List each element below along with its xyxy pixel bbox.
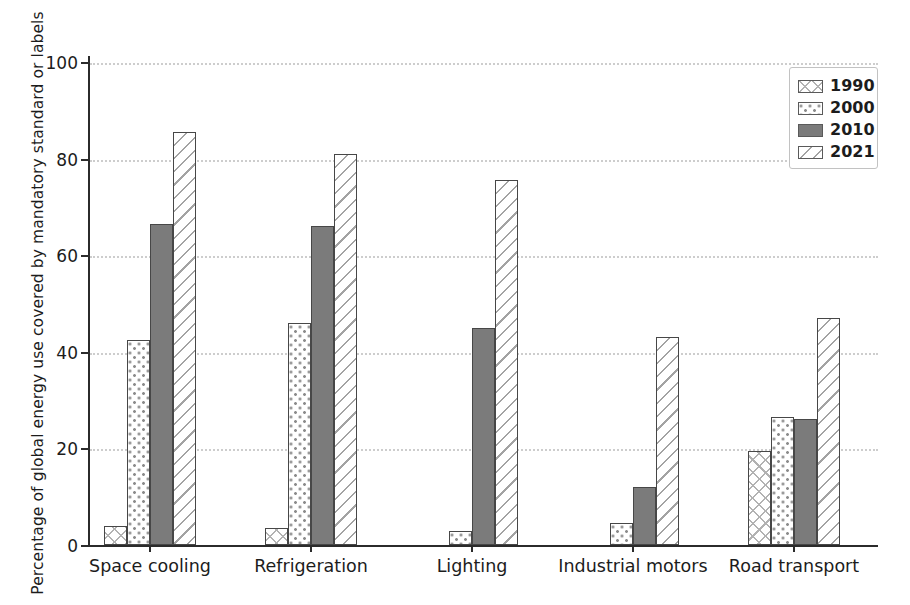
bar-space-cooling-2021 — [173, 132, 196, 545]
plot-area: 020406080100Space coolingRefrigerationLi… — [90, 63, 875, 546]
y-tick-label-40: 40 — [32, 342, 78, 364]
bar-refrigeration-2010 — [311, 226, 334, 545]
bar-space-cooling-1990 — [104, 526, 127, 545]
bar-lighting-2021 — [495, 180, 518, 545]
legend-label-2000: 2000 — [830, 100, 875, 116]
legend-swatch-2000 — [798, 102, 823, 115]
bar-industrial-motors-2000 — [610, 523, 633, 545]
gridline-60 — [90, 256, 878, 258]
y-tick-label-60: 60 — [32, 245, 78, 267]
bar-refrigeration-2021 — [334, 154, 357, 545]
bar-road-transport-2000 — [771, 417, 794, 545]
legend-swatch-2021 — [798, 146, 823, 159]
y-tick-label-100: 100 — [32, 52, 78, 74]
y-tick-mark-0 — [81, 545, 88, 547]
y-axis-label: Percentage of global energy use covered … — [29, 11, 47, 594]
bar-refrigeration-2000 — [288, 323, 311, 545]
bar-road-transport-2021 — [817, 318, 840, 545]
x-tick-mark-road-transport — [793, 547, 795, 552]
bar-chart-figure: Percentage of global energy use covered … — [0, 0, 910, 605]
y-tick-mark-40 — [81, 352, 88, 354]
y-tick-mark-100 — [81, 62, 88, 64]
y-tick-label-0: 0 — [32, 535, 78, 557]
x-tick-mark-lighting — [471, 547, 473, 552]
y-tick-mark-20 — [81, 448, 88, 450]
bar-industrial-motors-2021 — [656, 337, 679, 545]
y-tick-mark-60 — [81, 255, 88, 257]
x-tick-mark-refrigeration — [310, 547, 312, 552]
y-tick-label-20: 20 — [32, 438, 78, 460]
bar-space-cooling-2000 — [127, 340, 150, 545]
gridline-80 — [90, 160, 878, 162]
legend-item-2010: 2010 — [798, 119, 870, 141]
legend: 1990200020102021 — [789, 67, 878, 169]
bar-lighting-2010 — [472, 328, 495, 545]
legend-item-1990: 1990 — [798, 75, 870, 97]
bar-road-transport-2010 — [794, 419, 817, 545]
y-tick-mark-80 — [81, 159, 88, 161]
gridline-100 — [90, 63, 878, 65]
legend-item-2021: 2021 — [798, 141, 870, 163]
legend-item-2000: 2000 — [798, 97, 870, 119]
legend-swatch-2010 — [798, 124, 823, 137]
x-tick-mark-industrial-motors — [632, 547, 634, 552]
legend-label-2021: 2021 — [830, 144, 875, 160]
bar-refrigeration-1990 — [265, 528, 288, 545]
bar-lighting-2000 — [449, 531, 472, 545]
legend-swatch-1990 — [798, 80, 823, 93]
y-tick-label-80: 80 — [32, 149, 78, 171]
legend-label-2010: 2010 — [830, 122, 875, 138]
legend-label-1990: 1990 — [830, 78, 875, 94]
bar-road-transport-1990 — [748, 451, 771, 545]
bar-space-cooling-2010 — [150, 224, 173, 545]
x-tick-mark-space-cooling — [149, 547, 151, 552]
bar-industrial-motors-2010 — [633, 487, 656, 545]
x-tick-label-road-transport: Road transport — [699, 555, 889, 577]
